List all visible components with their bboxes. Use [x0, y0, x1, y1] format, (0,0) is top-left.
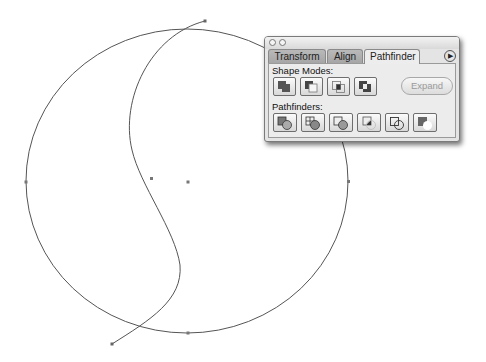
anchor-point[interactable]	[347, 180, 350, 183]
close-icon[interactable]	[269, 39, 276, 46]
crop-button[interactable]	[357, 113, 381, 132]
outline-icon	[389, 116, 405, 130]
merge-button[interactable]	[329, 113, 353, 132]
center-point	[187, 181, 190, 184]
shape-modes-label: Shape Modes:	[272, 65, 333, 76]
panel-menu-button[interactable]: ▶	[444, 50, 456, 62]
panel-body: Shape Modes: Expand Pathfinders:	[268, 63, 456, 138]
s-curve-path[interactable]	[112, 21, 205, 344]
minus-back-button[interactable]	[413, 113, 437, 132]
minus-back-icon	[417, 116, 433, 130]
anchor-point[interactable]	[150, 177, 153, 180]
trim-button[interactable]	[301, 113, 325, 132]
anchor-point[interactable]	[204, 20, 207, 23]
divide-button[interactable]	[273, 113, 297, 132]
merge-icon	[333, 116, 349, 130]
exclude-overlapping-shape-areas-button[interactable]	[354, 77, 377, 96]
pathfinder-panel: Transform Align Pathfinder ▶ Shape Modes…	[264, 36, 460, 142]
triangle-right-icon: ▶	[448, 52, 453, 59]
trim-icon	[305, 116, 321, 130]
outline-button[interactable]	[385, 113, 409, 132]
intersect-shape-areas-button[interactable]	[327, 77, 350, 96]
tab-align[interactable]: Align	[327, 49, 363, 63]
tab-pathfinder[interactable]: Pathfinder	[364, 49, 420, 64]
subtract-from-shape-area-button[interactable]	[300, 77, 323, 96]
intersect-icon	[331, 80, 346, 93]
add-icon	[277, 80, 292, 93]
tab-transform[interactable]: Transform	[268, 49, 326, 63]
collapse-icon[interactable]	[279, 39, 286, 46]
anchor-point[interactable]	[187, 332, 190, 335]
add-to-shape-area-button[interactable]	[273, 77, 296, 96]
crop-icon	[361, 116, 377, 130]
anchor-point[interactable]	[25, 181, 28, 184]
exclude-icon	[358, 80, 373, 93]
pathfinders-label: Pathfinders:	[272, 101, 323, 112]
panel-tabs: Transform Align Pathfinder	[268, 49, 456, 63]
panel-titlebar[interactable]	[265, 37, 459, 49]
anchor-point[interactable]	[111, 343, 114, 346]
divide-icon	[277, 116, 293, 130]
expand-button[interactable]: Expand	[401, 77, 453, 95]
subtract-icon	[304, 80, 319, 93]
